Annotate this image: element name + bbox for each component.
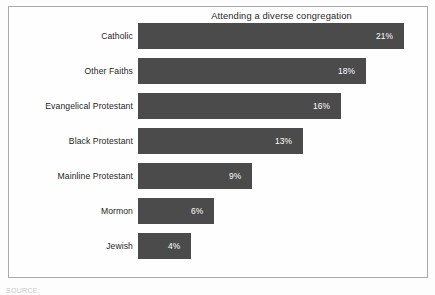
bar[interactable]: [138, 58, 366, 84]
bar-track: 16%: [138, 93, 427, 119]
bar-value-label: 9%: [229, 163, 241, 189]
category-label: Jewish: [9, 233, 133, 259]
bar[interactable]: [138, 23, 404, 49]
bar-track: 13%: [138, 128, 427, 154]
source-note: SOURCE:: [6, 287, 176, 295]
chart-figure: Attending a diverse congregation Catholi…: [0, 0, 435, 295]
chart-title: Attending a diverse congregation: [139, 11, 424, 21]
bar-track: 18%: [138, 58, 427, 84]
bar-row: Jewish 4%: [9, 233, 427, 259]
bar-row: Catholic 21%: [9, 23, 427, 49]
bar-row: Black Protestant 13%: [9, 128, 427, 154]
category-label: Black Protestant: [9, 128, 133, 154]
bar-track: 6%: [138, 198, 427, 224]
bar-track: 4%: [138, 233, 427, 259]
bar-value-label: 13%: [275, 128, 292, 154]
category-label: Evangelical Protestant: [9, 93, 133, 119]
bar-value-label: 16%: [313, 93, 330, 119]
bar-row: Mormon 6%: [9, 198, 427, 224]
plot-area: Catholic 21% Other Faiths 18% Evangelica…: [9, 23, 427, 277]
bar-track: 21%: [138, 23, 427, 49]
category-label: Mainline Protestant: [9, 163, 133, 189]
bar[interactable]: [138, 93, 341, 119]
category-label: Catholic: [9, 23, 133, 49]
bar-row: Other Faiths 18%: [9, 58, 427, 84]
bar-track: 9%: [138, 163, 427, 189]
bar-value-label: 4%: [168, 233, 180, 259]
category-label: Mormon: [9, 198, 133, 224]
bar-value-label: 21%: [376, 23, 393, 49]
bar-row: Evangelical Protestant 16%: [9, 93, 427, 119]
bar-value-label: 18%: [338, 58, 355, 84]
chart-frame: Attending a diverse congregation Catholi…: [8, 6, 428, 278]
bar[interactable]: [138, 233, 191, 259]
bar-value-label: 6%: [191, 198, 203, 224]
category-label: Other Faiths: [9, 58, 133, 84]
bar-row: Mainline Protestant 9%: [9, 163, 427, 189]
